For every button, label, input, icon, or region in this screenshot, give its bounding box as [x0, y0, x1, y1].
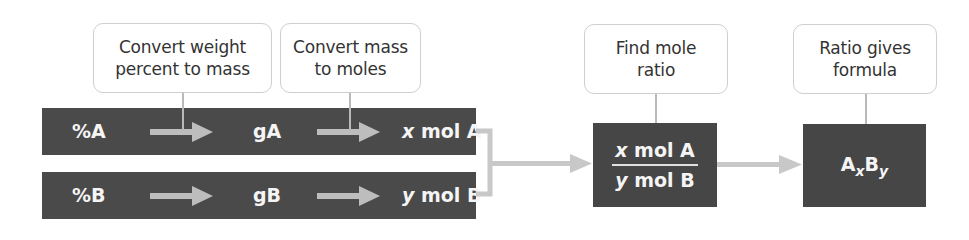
formula-box: AxBy — [803, 124, 926, 207]
label-line: Convert weight — [119, 37, 246, 57]
var-x: x — [615, 139, 627, 161]
percent-a: %A — [72, 120, 106, 142]
fraction-line — [612, 164, 698, 166]
unit: mol B — [421, 184, 481, 206]
unit: mol B — [634, 169, 694, 191]
label-find-mole-ratio: Find moleratio — [584, 24, 728, 94]
label-line: Convert mass — [293, 37, 408, 57]
ratio-denominator: y mol B — [615, 169, 694, 191]
ratio-numerator: x mol A — [615, 139, 695, 161]
subscript-x: x — [856, 163, 865, 179]
connector-line — [182, 93, 184, 131]
arrow-right-icon — [717, 155, 803, 175]
percent-b: %B — [72, 184, 106, 206]
unit: mol A — [634, 139, 695, 161]
grams-a: gA — [253, 120, 281, 142]
var-x: x — [402, 120, 414, 142]
connector-line — [349, 93, 351, 131]
connector-line — [865, 94, 867, 124]
merge-bracket-arrow-icon — [476, 128, 594, 200]
row-a-bar: %A gA x mol A — [42, 108, 476, 155]
var-y: y — [615, 169, 627, 191]
label-line: Ratio gives — [819, 38, 911, 58]
arrow-right-icon — [150, 186, 214, 206]
element-b: B — [865, 153, 879, 175]
label-line: percent to mass — [115, 59, 250, 79]
var-y: y — [402, 184, 414, 206]
label-ratio-gives-formula: Ratio givesformula — [793, 24, 937, 94]
formula: AxBy — [841, 153, 888, 179]
arrow-right-icon — [317, 186, 381, 206]
label-line: formula — [833, 60, 897, 80]
mole-ratio-box: x mol A y mol B — [593, 123, 717, 207]
moles-b: y mol B — [402, 184, 481, 206]
unit: mol A — [421, 120, 482, 142]
label-line: ratio — [637, 60, 675, 80]
label-line: Find mole — [616, 38, 697, 58]
element-a: A — [841, 153, 856, 175]
label-convert-weight-percent: Convert weightpercent to mass — [93, 23, 272, 93]
label-convert-mass-to-moles: Convert massto moles — [280, 23, 421, 93]
subscript-y: y — [879, 163, 888, 179]
connector-line — [655, 94, 657, 123]
label-line: to moles — [315, 59, 387, 79]
grams-b: gB — [253, 184, 281, 206]
moles-a: x mol A — [402, 120, 482, 142]
row-b-bar: %B gB y mol B — [42, 172, 476, 219]
